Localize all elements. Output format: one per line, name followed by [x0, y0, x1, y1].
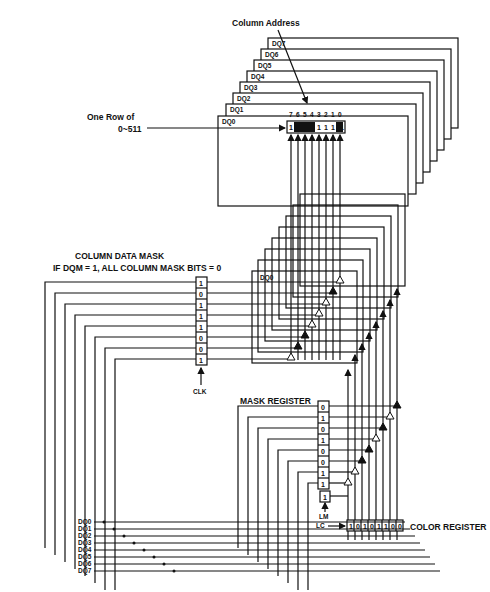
svg-text:1: 1 [199, 313, 203, 320]
column-mask-register: 1 0 1 1 1 0 0 1 [196, 277, 207, 365]
svg-text:1: 1 [199, 302, 203, 309]
svg-text:7: 7 [289, 111, 293, 118]
svg-text:3: 3 [317, 111, 321, 118]
mask-register-buffers [344, 401, 401, 485]
svg-text:0: 0 [338, 111, 342, 118]
svg-text:DQ7: DQ7 [78, 567, 92, 575]
svg-text:1: 1 [199, 357, 203, 364]
svg-text:1: 1 [340, 124, 344, 131]
mask-register-title: MASK REGISTER [240, 396, 311, 406]
svg-text:0: 0 [199, 291, 203, 298]
svg-text:1: 1 [321, 415, 325, 422]
svg-text:2: 2 [324, 111, 328, 118]
lower-plane-stack [252, 194, 405, 363]
plane-label: DQ1 [230, 106, 244, 114]
memory-row: 1 1 1 1 1 [287, 121, 345, 133]
svg-text:1: 1 [199, 324, 203, 331]
plane-label: DQ0 [222, 118, 236, 126]
svg-text:1: 1 [323, 494, 327, 501]
plane-label: DQ5 [258, 62, 272, 70]
svg-text:0: 0 [199, 335, 203, 342]
svg-text:0: 0 [321, 404, 325, 411]
svg-text:1: 1 [324, 124, 328, 131]
column-mask-title-2: IF DQM = 1, ALL COLUMN MASK BITS = 0 [53, 263, 221, 273]
row-label-line2: 0~511 [118, 124, 142, 134]
column-mask-title-1: COLUMN DATA MASK [75, 251, 165, 261]
svg-text:0: 0 [199, 346, 203, 353]
svg-text:1: 1 [321, 437, 325, 444]
svg-text:1: 1 [289, 124, 293, 131]
column-mask-buffers [287, 276, 344, 360]
svg-text:5: 5 [303, 111, 307, 118]
mask-register: 0 1 0 1 0 0 1 1 [318, 401, 329, 489]
svg-text:1: 1 [199, 280, 203, 287]
lm-register: 1 LM LC [316, 491, 348, 529]
row-label-line1: One Row of [87, 112, 134, 122]
svg-text:6: 6 [296, 111, 300, 118]
color-register-title: COLOR REGISTER [410, 522, 487, 532]
svg-text:0: 0 [321, 426, 325, 433]
lm-label: LM [319, 513, 328, 520]
plane-label: DQ4 [251, 73, 265, 81]
plane-label: DQ3 [244, 84, 258, 92]
lc-label: LC [316, 522, 325, 529]
clk-label: CLK [193, 388, 207, 395]
svg-text:1: 1 [317, 124, 321, 131]
svg-text:1: 1 [321, 481, 325, 488]
svg-text:0: 0 [321, 459, 325, 466]
plane-label: DQ6 [265, 51, 279, 59]
lower-plane-label: DQ0 [260, 274, 274, 282]
svg-text:1: 1 [331, 124, 335, 131]
block-write-diagram: DQ7 DQ6 DQ5 DQ4 DQ3 DQ2 DQ1 DQ0 Column A… [0, 0, 490, 592]
svg-text:1: 1 [321, 470, 325, 477]
plane-label: DQ2 [237, 95, 251, 103]
svg-text:4: 4 [310, 111, 314, 118]
svg-text:0: 0 [321, 448, 325, 455]
svg-text:1: 1 [331, 111, 335, 118]
column-address-label: Column Address [232, 18, 300, 28]
